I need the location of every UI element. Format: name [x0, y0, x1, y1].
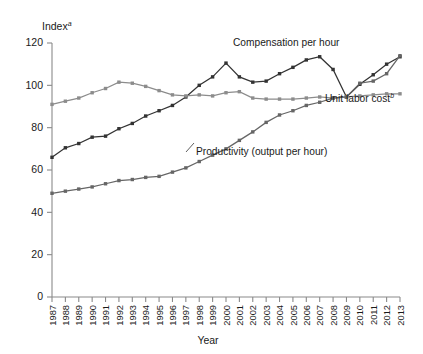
data-point	[318, 55, 321, 58]
data-point	[305, 104, 308, 107]
data-point	[358, 82, 361, 85]
data-point	[90, 91, 93, 94]
x-tick-label-2001: 2001	[235, 305, 245, 326]
data-point	[372, 79, 375, 82]
data-point	[291, 97, 294, 100]
x-tick-group: 1987198819891990199119921993199419951996…	[48, 297, 406, 326]
data-point	[171, 170, 174, 173]
data-point	[238, 139, 241, 142]
data-point	[184, 166, 187, 169]
data-point	[157, 175, 160, 178]
data-point	[305, 96, 308, 99]
data-point	[64, 100, 67, 103]
x-tick-label-1990: 1990	[88, 305, 98, 326]
data-point	[251, 96, 254, 99]
series-productivity-output-per-hour	[50, 54, 401, 195]
data-point	[64, 146, 67, 149]
data-point	[398, 54, 401, 57]
chart-canvas: 020406080100120 198719881989199019911992…	[0, 0, 423, 354]
data-point	[264, 79, 267, 82]
y-tick-label-40: 40	[31, 206, 43, 218]
x-tick-label-2000: 2000	[222, 305, 232, 326]
annotation-productivity: Productivity (output per hour)	[196, 146, 327, 157]
x-tick-label-1992: 1992	[115, 305, 125, 326]
x-tick-label-1995: 1995	[155, 305, 165, 326]
data-point	[398, 92, 401, 95]
data-point	[104, 134, 107, 137]
y-tick-label-0: 0	[37, 290, 43, 302]
x-tick-label-2011: 2011	[369, 305, 379, 325]
data-point	[50, 192, 53, 195]
series-compensation-per-hour	[50, 55, 401, 159]
y-tick-label-20: 20	[31, 248, 43, 260]
y-axis-title-text: Index	[42, 20, 68, 32]
data-point	[224, 61, 227, 64]
data-point	[198, 93, 201, 96]
x-tick-label-1994: 1994	[141, 305, 151, 326]
x-tick-label-1991: 1991	[101, 305, 111, 326]
annotation-productivity-text: Productivity (output per hour)	[196, 146, 327, 157]
x-tick-label-1987: 1987	[48, 305, 58, 326]
data-point	[90, 135, 93, 138]
y-tick-label-100: 100	[25, 79, 43, 91]
y-axis-group: 020406080100120	[25, 36, 52, 302]
annotation-compensation: Compensation per hour	[233, 37, 340, 48]
data-point	[184, 94, 187, 97]
y-axis-title: Indexa	[42, 20, 72, 32]
data-point	[238, 90, 241, 93]
data-point	[278, 97, 281, 100]
data-point	[198, 160, 201, 163]
data-point	[318, 95, 321, 98]
data-point	[171, 93, 174, 96]
data-point	[77, 96, 80, 99]
leader-line-productivity	[186, 143, 194, 152]
x-tick-label-2006: 2006	[302, 305, 312, 326]
data-point	[117, 179, 120, 182]
data-point	[50, 156, 53, 159]
data-point	[385, 72, 388, 75]
data-point	[144, 114, 147, 117]
data-point	[144, 85, 147, 88]
x-tick-label-2007: 2007	[315, 305, 325, 326]
data-point	[198, 84, 201, 87]
x-tick-label-1999: 1999	[208, 305, 218, 326]
x-tick-label-1996: 1996	[168, 305, 178, 326]
annotation-unit-labor-cost: Unit labor costb	[325, 92, 394, 104]
data-point	[117, 80, 120, 83]
x-tick-label-1993: 1993	[128, 305, 138, 326]
data-point	[77, 142, 80, 145]
x-tick-label-2010: 2010	[355, 305, 365, 326]
data-point	[131, 122, 134, 125]
data-point	[131, 178, 134, 181]
data-point	[305, 58, 308, 61]
data-point	[131, 82, 134, 85]
data-point	[77, 187, 80, 190]
data-point	[372, 73, 375, 76]
x-tick-label-2009: 2009	[342, 305, 352, 326]
data-point	[224, 91, 227, 94]
x-axis-title: Year	[197, 334, 219, 346]
series-line-compensation-per-hour	[52, 57, 400, 158]
data-point	[211, 94, 214, 97]
annotations-group: Compensation per hour Unit labor costb P…	[186, 37, 394, 157]
y-tick-label-80: 80	[31, 121, 43, 133]
data-point	[291, 109, 294, 112]
annotation-unit-labor-cost-text: Unit labor cost	[325, 93, 390, 104]
y-tick-label-60: 60	[31, 163, 43, 175]
data-point	[104, 182, 107, 185]
x-axis-group: 1987198819891990199119921993199419951996…	[48, 297, 406, 326]
x-tick-label-2005: 2005	[289, 305, 299, 326]
x-tick-label-1998: 1998	[195, 305, 205, 326]
data-point	[278, 113, 281, 116]
data-point	[90, 185, 93, 188]
data-point	[264, 97, 267, 100]
x-tick-label-2013: 2013	[396, 305, 406, 326]
series-group	[50, 54, 401, 195]
x-tick-label-2003: 2003	[262, 305, 272, 326]
data-point	[291, 66, 294, 69]
data-point	[157, 109, 160, 112]
x-tick-label-2004: 2004	[275, 305, 285, 326]
x-tick-label-1988: 1988	[61, 305, 71, 326]
data-point	[251, 80, 254, 83]
y-tick-label-120: 120	[25, 36, 43, 48]
